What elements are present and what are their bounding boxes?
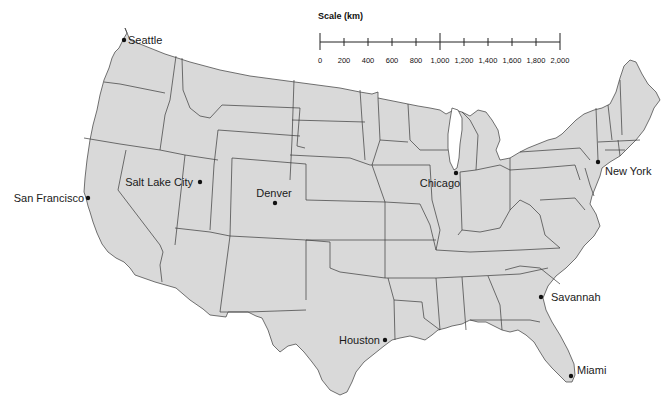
- scale-tick-1800: 1,800: [527, 56, 546, 65]
- city-label: Denver: [256, 187, 292, 199]
- city-label: Seattle: [128, 34, 162, 46]
- city-marker-icon: [596, 160, 600, 164]
- scale-tick-600: 600: [386, 56, 399, 65]
- city-label: Miami: [577, 364, 606, 376]
- scale-tick-400: 400: [362, 56, 375, 65]
- us-map: Scale (km) 0 200 400 600 800 1,000 1,200…: [0, 0, 667, 406]
- scale-bar: Scale (km) 0 200 400 600 800 1,000 1,200…: [318, 11, 569, 65]
- city-san-francisco: San Francisco: [14, 192, 91, 204]
- city-savannah: Savannah: [539, 291, 601, 303]
- city-salt-lake-city: Salt Lake City: [125, 176, 202, 188]
- city-houston: Houston: [339, 334, 387, 346]
- city-label: Salt Lake City: [125, 176, 193, 188]
- scale-tick-1400: 1,400: [479, 56, 498, 65]
- city-label: San Francisco: [14, 192, 84, 204]
- city-marker-icon: [454, 171, 458, 175]
- scale-tick-1600: 1,600: [503, 56, 522, 65]
- city-label: Houston: [339, 334, 380, 346]
- city-seattle: Seattle: [122, 34, 162, 46]
- city-marker-icon: [539, 295, 543, 299]
- city-marker-icon: [383, 338, 387, 342]
- scale-tick-200: 200: [338, 56, 351, 65]
- city-marker-icon: [273, 201, 277, 205]
- scale-title: Scale (km): [318, 11, 363, 21]
- scale-tick-1000: 1,000: [431, 56, 450, 65]
- city-label: New York: [605, 165, 652, 177]
- scale-tick-1200: 1,200: [455, 56, 474, 65]
- scale-tick-2000: 2,000: [551, 56, 570, 65]
- city-label: Savannah: [551, 291, 601, 303]
- city-marker-icon: [569, 374, 573, 378]
- scale-tick-0: 0: [318, 56, 322, 65]
- city-marker-icon: [86, 196, 90, 200]
- city-label: Chicago: [420, 177, 460, 189]
- city-marker-icon: [198, 180, 202, 184]
- city-marker-icon: [122, 38, 126, 42]
- scale-tick-800: 800: [410, 56, 423, 65]
